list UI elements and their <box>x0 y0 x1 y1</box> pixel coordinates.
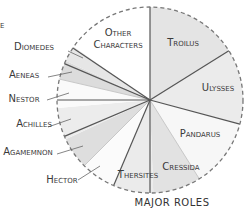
label-pandarus: Pandarus <box>180 128 221 139</box>
chart-title: MAJOR ROLES <box>135 197 210 208</box>
label-ulysses: Ulysses <box>202 82 235 93</box>
label-achilles: Achilles <box>16 118 52 129</box>
label-nestor: Nestor <box>9 93 40 104</box>
label-cressida: Cressida <box>162 161 199 172</box>
pie-chart: TroilusUlyssesPandarusCressidaThersitesH… <box>0 0 247 210</box>
label-other-characters: Characters <box>93 39 143 50</box>
label-thersites: Thersites <box>117 169 159 180</box>
label-aeneas: Aeneas <box>9 69 40 80</box>
label-troilus: Troilus <box>166 37 199 48</box>
corner-text-fragment: e <box>0 19 4 30</box>
label-hector: Hector <box>46 174 78 185</box>
label-other-characters: Other <box>105 27 132 38</box>
label-diomedes: Diomedes <box>14 41 55 52</box>
label-agamemnon: Agamemnon <box>3 146 53 157</box>
